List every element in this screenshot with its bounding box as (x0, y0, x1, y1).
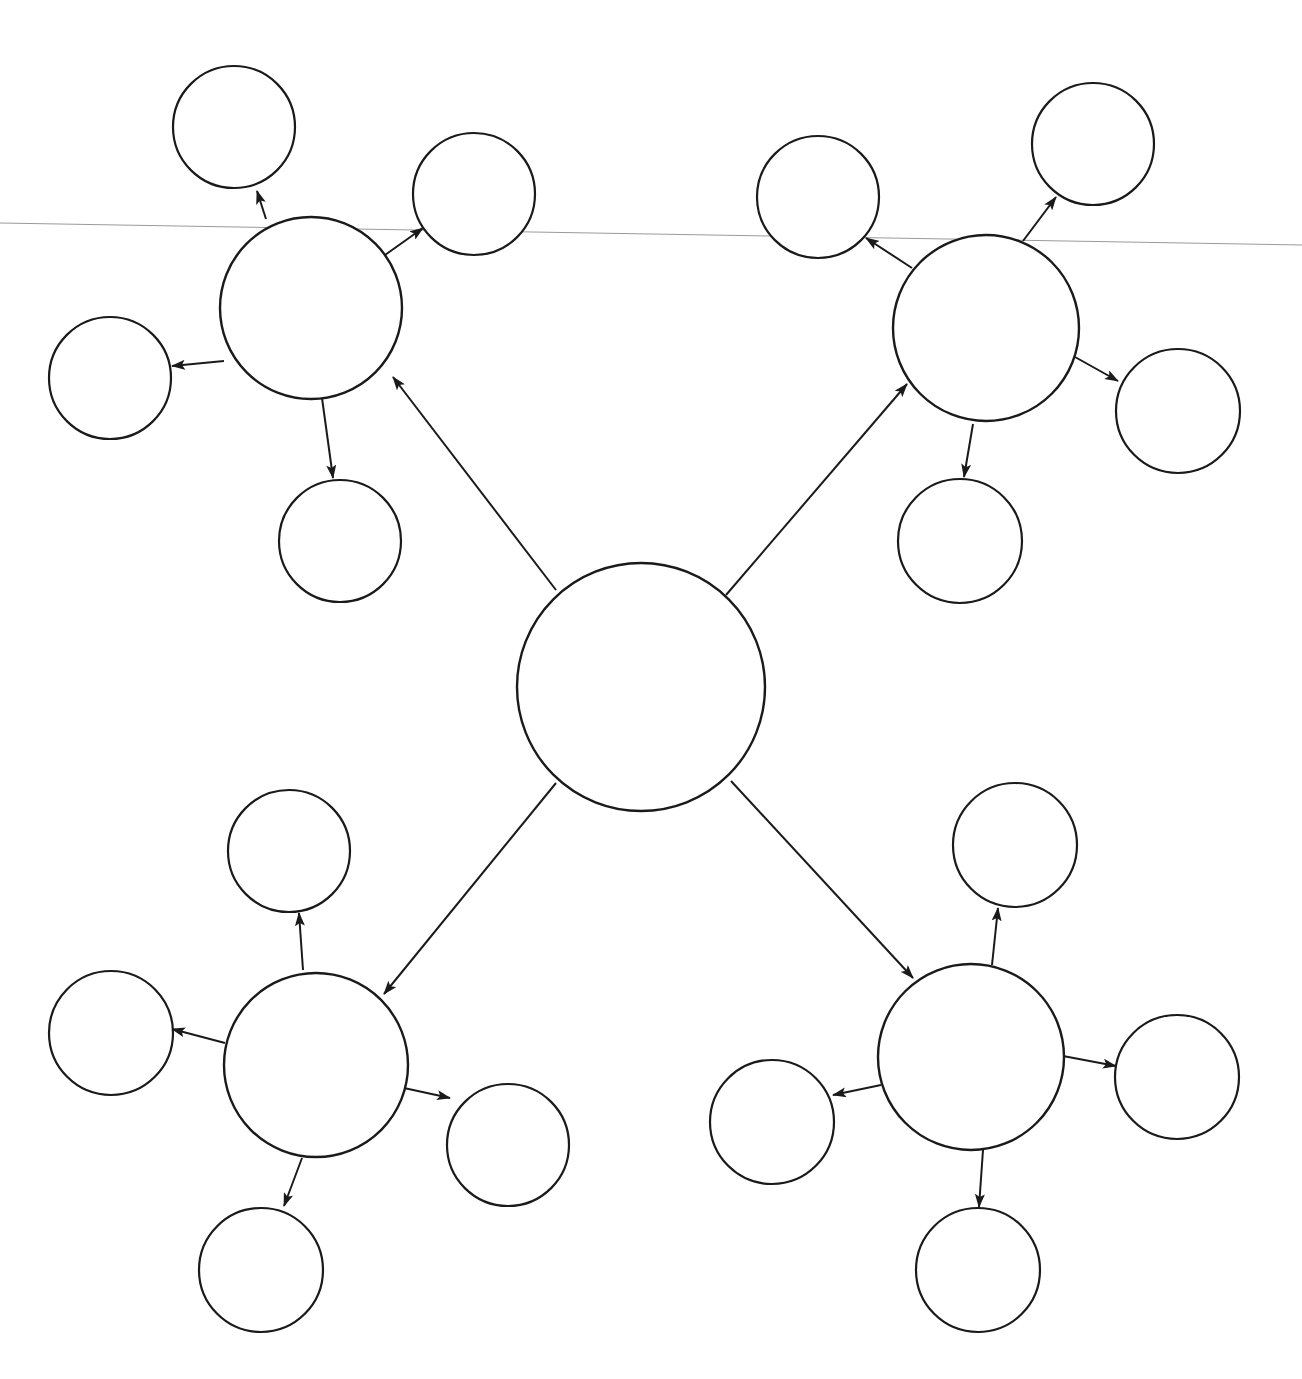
edge-top-right-to-tr-top-left (866, 238, 912, 268)
satellite-node-tr-top-left-shape (757, 136, 879, 258)
satellite-node-bl-left[interactable] (49, 971, 173, 1095)
satellite-node-bl-top-shape (228, 790, 350, 912)
central-node-shape (517, 563, 765, 811)
edge-top-left-to-tl-top (257, 191, 266, 219)
satellite-node-bl-bottom-shape (199, 1208, 323, 1332)
satellite-node-bl-bottom[interactable] (199, 1208, 323, 1332)
satellite-node-br-top-shape (953, 783, 1077, 907)
edge-top-left-to-tl-left (172, 361, 224, 366)
satellite-node-tl-left[interactable] (49, 317, 171, 439)
satellite-node-tr-top-right-shape (1032, 83, 1154, 205)
edge-top-left-to-tl-bottom (322, 398, 333, 478)
scan-artifact-line (0, 223, 1302, 245)
satellite-node-tl-bottom-shape (279, 480, 401, 602)
satellite-node-tr-right[interactable] (1116, 349, 1240, 473)
nodes-layer (49, 66, 1240, 1332)
edge-center-to-top-right (726, 384, 907, 595)
satellite-node-br-bottom-shape (916, 1208, 1040, 1332)
satellite-node-br-top[interactable] (953, 783, 1077, 907)
edge-bottom-right-to-br-right (1063, 1056, 1116, 1066)
satellite-node-br-bottom[interactable] (916, 1208, 1040, 1332)
edge-bottom-left-to-bl-bottom (284, 1158, 302, 1206)
edge-center-to-top-left (393, 377, 556, 590)
bubble-map-diagram (0, 0, 1302, 1379)
hub-node-top-left-shape (220, 217, 402, 399)
satellite-node-tr-bottom[interactable] (898, 479, 1022, 603)
edge-top-right-to-tr-top-right (1023, 197, 1056, 241)
satellite-node-tl-right[interactable] (413, 133, 535, 255)
satellite-node-br-left[interactable] (710, 1060, 834, 1184)
edge-bottom-left-to-bl-left (172, 1029, 225, 1043)
hub-node-bottom-left-shape (224, 973, 408, 1157)
hub-node-bottom-right[interactable] (878, 964, 1064, 1150)
satellite-node-br-right-shape (1115, 1015, 1239, 1139)
edge-top-right-to-tr-right (1075, 357, 1118, 381)
satellite-node-tl-top-shape (173, 66, 295, 188)
edge-bottom-left-to-bl-top (299, 913, 303, 970)
edge-top-right-to-tr-bottom (964, 424, 973, 477)
satellite-node-bl-top[interactable] (228, 790, 350, 912)
edge-center-to-bottom-left (384, 783, 556, 994)
satellite-node-tl-bottom[interactable] (279, 480, 401, 602)
central-node[interactable] (517, 563, 765, 811)
edge-bottom-right-to-br-bottom (979, 1150, 983, 1207)
hub-node-top-right[interactable] (893, 235, 1079, 421)
satellite-node-tr-top-right[interactable] (1032, 83, 1154, 205)
satellite-node-tl-right-shape (413, 133, 535, 255)
satellite-node-br-left-shape (710, 1060, 834, 1184)
hub-node-top-right-shape (893, 235, 1079, 421)
satellite-node-tl-top[interactable] (173, 66, 295, 188)
satellite-node-tr-top-left[interactable] (757, 136, 879, 258)
satellite-node-tl-left-shape (49, 317, 171, 439)
edge-bottom-right-to-br-top (992, 908, 998, 965)
edge-bottom-left-to-bl-right (404, 1088, 450, 1098)
edge-top-left-to-tl-right (385, 228, 423, 255)
satellite-node-bl-right-shape (447, 1084, 569, 1206)
satellite-node-tr-bottom-shape (898, 479, 1022, 603)
satellite-node-br-right[interactable] (1115, 1015, 1239, 1139)
hub-node-bottom-right-shape (878, 964, 1064, 1150)
hub-node-bottom-left[interactable] (224, 973, 408, 1157)
hub-node-top-left[interactable] (220, 217, 402, 399)
satellite-node-tr-right-shape (1116, 349, 1240, 473)
edge-bottom-right-to-br-left (833, 1085, 881, 1095)
satellite-node-bl-left-shape (49, 971, 173, 1095)
edge-center-to-bottom-right (731, 781, 913, 978)
satellite-node-bl-right[interactable] (447, 1084, 569, 1206)
